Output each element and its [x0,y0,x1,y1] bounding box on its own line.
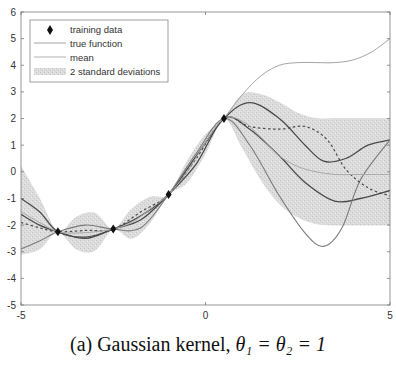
y-tick-label: -3 [7,246,16,257]
x-tick-label: 0 [203,310,209,321]
two-std-band [21,92,390,254]
legend-label-training: training data [70,24,123,35]
legend-band-swatch [34,68,66,75]
figure-caption: (a) Gaussian kernel, θ₁ = θ₂ = 1 [0,333,396,356]
y-tick-label: 4 [10,60,16,71]
y-tick-label: -5 [7,300,16,311]
legend-label-mean: mean [70,52,94,63]
y-tick-label: 0 [10,166,16,177]
caption-math: θ₁ = θ₂ = 1 [235,333,326,355]
caption-label: (a) [70,333,92,355]
y-tick-label: -4 [7,273,16,284]
legend: training data true function mean 2 stand… [30,20,168,82]
x-tick-label: 5 [387,310,393,321]
caption-text: Gaussian kernel, [97,333,230,355]
y-tick-label: -1 [7,193,16,204]
figure: -5-4-3-2-10123456-505 training data true… [0,0,396,365]
y-tick-label: -2 [7,220,16,231]
y-tick-label: 2 [10,113,16,124]
y-tick-label: 6 [10,7,16,18]
legend-label-true-function: true function [70,38,122,49]
legend-label-band: 2 standard deviations [70,66,161,77]
training-point-marker-icon [55,227,61,236]
band-area [21,92,390,254]
y-tick-label: 1 [10,140,16,151]
training-point-marker-icon [110,225,116,234]
x-tick-label: -5 [17,310,26,321]
y-tick-label: 5 [10,33,16,44]
y-tick-label: 3 [10,86,16,97]
gp-regression-chart: -5-4-3-2-10123456-505 training data true… [0,0,396,330]
